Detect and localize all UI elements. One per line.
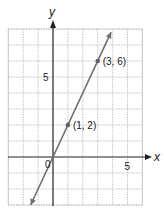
- plotted-points: (1, 2)(3, 6): [66, 56, 126, 131]
- line-y-equals-2x: [31, 32, 111, 205]
- data-point-label: (1, 2): [73, 120, 96, 131]
- y-tick-label: 5: [43, 72, 49, 83]
- x-axis-arrow-icon: [145, 154, 152, 160]
- axes: 55: [8, 20, 152, 206]
- axis-labels: x y 0: [45, 5, 161, 170]
- data-point: [66, 123, 71, 128]
- plotted-line: [30, 32, 111, 205]
- y-axis-label: y: [48, 5, 56, 19]
- origin-label: 0: [45, 159, 51, 170]
- data-point-label: (3, 6): [103, 56, 126, 67]
- x-axis-label: x: [153, 150, 161, 164]
- x-tick-label: 5: [125, 161, 131, 172]
- coordinate-plane: 55 (1, 2)(3, 6) x y 0: [0, 0, 164, 210]
- y-axis-arrow-icon: [50, 20, 56, 28]
- data-point: [95, 59, 100, 64]
